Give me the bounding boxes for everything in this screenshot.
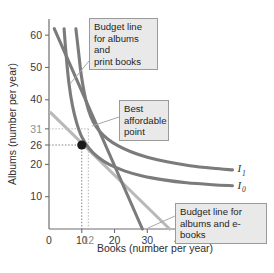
- y-tick-label: 26: [30, 139, 42, 151]
- y-tick-label: 60: [30, 29, 42, 41]
- label-I1-subscript: 1: [242, 169, 246, 178]
- best-affordable-point-marker: [77, 140, 86, 149]
- y-tick-label: 20: [30, 158, 42, 170]
- label-I0-subscript: 0: [242, 185, 246, 194]
- x-tick-label: 12: [82, 234, 94, 246]
- x-axis-title: Books (number per year): [97, 242, 213, 254]
- y-tick-label: 10: [30, 190, 42, 202]
- y-tick-label: 40: [30, 93, 42, 105]
- y-tick-label: 31: [30, 123, 42, 135]
- y-tick-label: 50: [30, 61, 42, 73]
- indifference-curve-chart: 10202631405060 010122030405060 I1I0 Book…: [0, 0, 274, 273]
- curve-labels-group: I1I0: [236, 162, 246, 193]
- callout-budget-print-books: Budget line for albums and print books: [89, 18, 158, 70]
- leader-budget-ebooks: [148, 216, 175, 228]
- y-axis-ticks: 10202631405060: [30, 29, 49, 203]
- x-tick-label: 0: [46, 234, 52, 246]
- callout-best-affordable-point: Best affordable point: [119, 100, 169, 141]
- y-axis-title: Albums (number per year): [6, 63, 18, 185]
- callout-budget-ebooks: Budget line for albums and e-books: [175, 203, 267, 244]
